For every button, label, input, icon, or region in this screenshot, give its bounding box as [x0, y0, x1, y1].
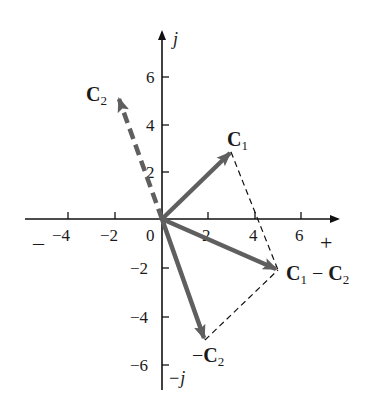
- x-tick-label: −2: [100, 226, 118, 245]
- origin-label: 0: [146, 226, 155, 245]
- x-tick-label: −4: [52, 226, 71, 245]
- imaginary-positive-label: j: [171, 29, 178, 49]
- real-positive-label: +: [320, 230, 332, 255]
- imaginary-negative-label: −j: [168, 368, 185, 388]
- x-ticks: [68, 212, 301, 219]
- x-tick-label: 6: [295, 226, 304, 245]
- vector-diagram: −4 −2 0 2 4 6 6 4 2 −2 −4 −6 j −j + – C1…: [0, 0, 378, 410]
- label-c2: C2: [86, 83, 107, 108]
- y-tick-label: −6: [130, 356, 148, 375]
- axes: −4 −2 0 2 4 6 6 4 2 −2 −4 −6 j −j + –: [25, 29, 338, 390]
- construction-lines: [205, 152, 278, 340]
- real-negative-label: –: [32, 230, 45, 255]
- label-c1: C1: [227, 128, 248, 153]
- vector-c2: [119, 99, 162, 219]
- construction-line-negc2-to-result: [205, 270, 278, 340]
- x-tick-label: 4: [249, 226, 258, 245]
- label-c1-minus-c2: C1 − C2: [286, 262, 349, 287]
- y-tick-label: 6: [146, 68, 155, 87]
- y-tick-label: −4: [130, 308, 149, 327]
- y-tick-label: −2: [130, 259, 148, 278]
- vector-c1: [162, 153, 230, 219]
- label-neg-c2: −C2: [192, 344, 224, 369]
- y-tick-label: 4: [146, 116, 155, 135]
